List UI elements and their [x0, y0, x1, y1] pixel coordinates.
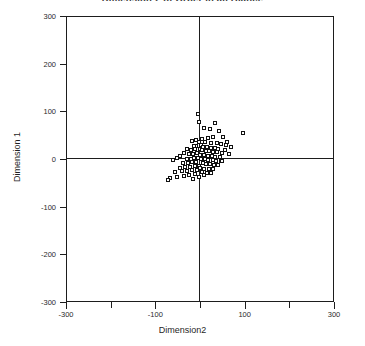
scatter-point [209, 171, 213, 175]
y-tick-label: 100 [22, 107, 56, 116]
y-tick-mark [60, 64, 66, 65]
scatter-point [208, 127, 212, 131]
scatter-point [225, 140, 229, 144]
y-tick-label: 200 [22, 59, 56, 68]
scatter-point [216, 163, 220, 167]
x-tick-mark [200, 302, 201, 308]
scatter-point [241, 131, 245, 135]
scatter-point [190, 139, 194, 143]
scatter-point [211, 135, 215, 139]
scatter-point [166, 178, 170, 182]
x-tick-label: -100 [135, 310, 175, 319]
x-tick-mark [289, 302, 290, 308]
scatter-point [220, 159, 224, 163]
x-tick-label: 100 [225, 310, 265, 319]
scatter-point [213, 121, 217, 125]
x-tick-mark [245, 302, 246, 309]
scatter-point [227, 152, 231, 156]
scatter-point [182, 174, 186, 178]
x-tick-label: -300 [46, 310, 86, 319]
scatter-point [202, 173, 206, 177]
scatter-point [178, 154, 182, 158]
scatter-point [202, 126, 206, 130]
scatter-plot-figure: Dimension 2 of Orber in all Blance 30020… [0, 0, 365, 346]
y-tick-mark [60, 207, 66, 208]
scatter-point [185, 147, 189, 151]
scatter-point [173, 170, 177, 174]
scatter-point [182, 151, 186, 155]
scatter-point [197, 120, 201, 124]
scatter-point [221, 135, 225, 139]
x-axis-title: Dimension2 [0, 325, 365, 335]
y-axis-title: Dimension 1 [12, 107, 22, 207]
x-tick-mark [66, 302, 67, 309]
scatter-point [197, 175, 201, 179]
scatter-point [175, 156, 179, 160]
y-tick-label: 300 [22, 12, 56, 21]
scatter-point [219, 142, 223, 146]
scatter-point [196, 112, 200, 116]
scatter-point [171, 158, 175, 162]
scatter-point [217, 129, 221, 133]
y-tick-label: -200 [22, 250, 56, 259]
scatter-point [180, 169, 184, 173]
y-tick-label: -100 [22, 202, 56, 211]
x-tick-label: 300 [314, 310, 354, 319]
y-tick-mark [60, 111, 66, 112]
x-tick-mark [334, 302, 335, 309]
y-tick-mark [60, 16, 66, 17]
scatter-point [209, 141, 213, 145]
scatter-point [191, 177, 195, 181]
y-tick-mark [60, 159, 66, 160]
x-tick-mark [111, 302, 112, 308]
y-tick-label: -300 [22, 298, 56, 307]
scatter-point [229, 145, 233, 149]
chart-title: Dimension 2 of Orber in all Blance [0, 0, 365, 1]
y-tick-mark [60, 254, 66, 255]
scatter-point [175, 175, 179, 179]
y-tick-label: 0 [22, 155, 56, 164]
x-tick-mark [155, 302, 156, 309]
